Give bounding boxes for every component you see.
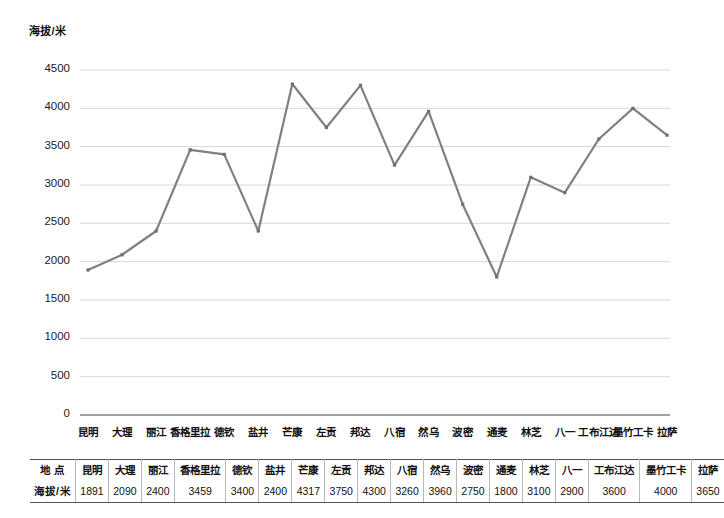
data-point-marker <box>563 191 566 194</box>
data-point-marker <box>461 203 464 206</box>
table-cell-elevation: 2900 <box>555 481 588 503</box>
table-cell-elevation: 4000 <box>640 481 692 503</box>
table-cell-place: 香格里拉 <box>174 460 226 482</box>
table-cell-elevation: 3600 <box>588 481 640 503</box>
y-tick-label: 3500 <box>18 139 70 151</box>
x-tick-label: 八宿 <box>384 424 404 439</box>
y-tick-label: 4000 <box>18 100 70 112</box>
x-tick-label: 左贡 <box>316 424 336 439</box>
data-point-marker <box>495 275 498 278</box>
x-tick-label: 八一 <box>555 424 575 439</box>
data-point-marker <box>257 229 260 232</box>
data-point-marker <box>223 153 226 156</box>
data-point-marker <box>427 110 430 113</box>
x-tick-label: 林芝 <box>521 424 541 439</box>
table-cell-place: 丽江 <box>141 460 174 482</box>
x-tick-label: 丽江 <box>146 424 166 439</box>
table-cell-place: 墨竹工卡 <box>640 460 692 482</box>
y-tick-label: 4500 <box>18 62 70 74</box>
data-point-marker <box>631 107 634 110</box>
table-cell-elevation: 1891 <box>76 481 109 503</box>
x-tick-label: 邦达 <box>350 424 370 439</box>
table-cell-place: 波密 <box>457 460 490 482</box>
y-tick-label: 1000 <box>18 330 70 342</box>
table-cell-place: 八一 <box>555 460 588 482</box>
y-tick-label: 2000 <box>18 254 70 266</box>
table-cell-place: 德钦 <box>226 460 259 482</box>
table-cell-elevation: 4317 <box>292 481 325 503</box>
table-cell-place: 邦达 <box>358 460 391 482</box>
series-line-elevation <box>88 84 667 277</box>
table-cell-place: 通麦 <box>489 460 522 482</box>
data-point-marker <box>325 126 328 129</box>
y-tick-label: 500 <box>18 369 70 381</box>
table-cell-place: 芒康 <box>292 460 325 482</box>
table-cell-place: 工布江达 <box>588 460 640 482</box>
data-table-container: 地 点 昆明大理丽江香格里拉德钦盐井芒康左贡邦达八宿然乌波密通麦林芝八一工布江达… <box>30 459 668 503</box>
x-tick-label: 拉萨 <box>657 424 677 439</box>
x-tick-label: 通麦 <box>487 424 507 439</box>
gridlines <box>80 70 670 377</box>
x-tick-label: 然乌 <box>418 424 438 439</box>
table-cell-elevation: 2400 <box>141 481 174 503</box>
table-cell-place: 昆明 <box>76 460 109 482</box>
chart-plot-svg <box>0 0 695 450</box>
y-tick-label: 1500 <box>18 292 70 304</box>
table-cell-elevation: 2750 <box>457 481 490 503</box>
table-cell-elevation: 3459 <box>174 481 226 503</box>
data-point-marker <box>291 82 294 85</box>
table-row-place: 地 点 昆明大理丽江香格里拉德钦盐井芒康左贡邦达八宿然乌波密通麦林芝八一工布江达… <box>30 460 724 482</box>
table-cell-place: 左贡 <box>325 460 358 482</box>
data-point-marker <box>189 148 192 151</box>
table-cell-elevation: 2090 <box>108 481 141 503</box>
x-tick-label: 墨竹工卡 <box>613 424 654 439</box>
data-point-marker <box>529 176 532 179</box>
elevation-data-table: 地 点 昆明大理丽江香格里拉德钦盐井芒康左贡邦达八宿然乌波密通麦林芝八一工布江达… <box>30 459 724 503</box>
table-cell-place: 林芝 <box>522 460 555 482</box>
data-point-marker <box>155 229 158 232</box>
x-tick-label: 德钦 <box>214 424 234 439</box>
table-row-elevation: 海拔/米 18912090240034593400240043173750430… <box>30 481 724 503</box>
data-point-marker <box>120 253 123 256</box>
table-cell-place: 然乌 <box>424 460 457 482</box>
elevation-line-chart: 海拔/米 05001000150020002500300035004000450… <box>0 0 695 450</box>
table-cell-place: 盐井 <box>259 460 292 482</box>
table-cell-elevation: 3650 <box>692 481 724 503</box>
table-cell-place: 拉萨 <box>692 460 724 482</box>
table-cell-elevation: 3100 <box>522 481 555 503</box>
x-tick-label: 大理 <box>112 424 132 439</box>
data-point-marker <box>597 137 600 140</box>
x-tick-label: 昆明 <box>78 424 98 439</box>
x-tick-label: 香格里拉 <box>170 424 211 439</box>
data-point-marker <box>359 84 362 87</box>
x-tick-label: 芒康 <box>282 424 302 439</box>
table-cell-place: 大理 <box>108 460 141 482</box>
table-cell-elevation: 2400 <box>259 481 292 503</box>
series-markers <box>86 82 668 278</box>
table-cell-elevation: 4300 <box>358 481 391 503</box>
data-point-marker <box>665 134 668 137</box>
table-rowhead-place: 地 点 <box>30 460 76 482</box>
table-cell-elevation: 1800 <box>489 481 522 503</box>
table-rowhead-elevation: 海拔/米 <box>30 481 76 503</box>
x-tick-label: 波密 <box>452 424 472 439</box>
table-cell-elevation: 3960 <box>424 481 457 503</box>
table-cell-elevation: 3750 <box>325 481 358 503</box>
y-tick-label: 0 <box>18 407 70 419</box>
y-tick-label: 3000 <box>18 177 70 189</box>
data-point-marker <box>393 163 396 166</box>
table-cell-place: 八宿 <box>391 460 424 482</box>
table-cell-elevation: 3260 <box>391 481 424 503</box>
table-cell-elevation: 3400 <box>226 481 259 503</box>
x-tick-label: 盐井 <box>248 424 268 439</box>
y-tick-label: 2500 <box>18 215 70 227</box>
data-point-marker <box>86 268 89 271</box>
